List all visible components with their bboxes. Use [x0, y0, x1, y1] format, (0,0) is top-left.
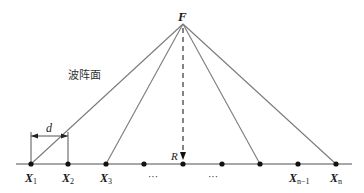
- point-4: [141, 161, 146, 166]
- svg-text:X3: X3: [99, 171, 112, 186]
- center-arrow-icon: [180, 152, 186, 160]
- svg-text:X2: X2: [61, 171, 74, 186]
- diagram-canvas: d F R 波阵面 X1 X2 X3 ··· ··· Xn−1 Xn: [0, 0, 364, 193]
- spacing-label: d: [46, 121, 53, 135]
- point-xn: [333, 161, 338, 166]
- point-xn-1: [295, 161, 300, 166]
- wavefront-label: 波阵面: [68, 68, 101, 82]
- ray-x1: [31, 24, 183, 164]
- svg-text:Xn−1: Xn−1: [288, 171, 310, 186]
- arrow-right-icon: [61, 134, 68, 139]
- point-x1: [28, 161, 33, 166]
- point-labels: X1 X2 X3 ··· ··· Xn−1 Xn: [24, 171, 342, 186]
- svg-text:Xn: Xn: [329, 171, 342, 186]
- point-center: [180, 161, 185, 166]
- center-label: R: [170, 150, 178, 162]
- ray-p7: [183, 24, 260, 164]
- ray-x3: [106, 24, 183, 164]
- ray-xn: [183, 24, 336, 164]
- ellipsis-2: ···: [208, 171, 218, 182]
- point-x2: [65, 161, 70, 166]
- svg-text:X1: X1: [24, 171, 37, 186]
- arrow-left-icon: [31, 134, 38, 139]
- point-6: [219, 161, 224, 166]
- point-x3: [103, 161, 108, 166]
- focus-label: F: [177, 9, 187, 24]
- ellipsis-1: ···: [148, 171, 158, 182]
- point-7: [257, 161, 262, 166]
